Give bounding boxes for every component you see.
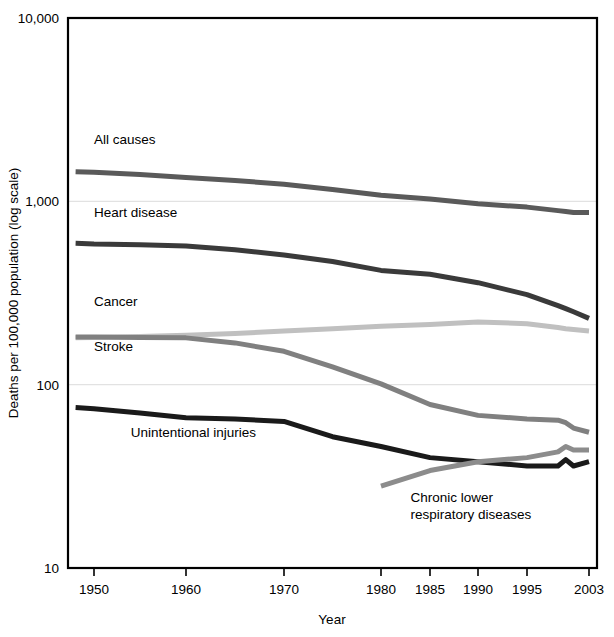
series-label-heart-disease: Heart disease	[94, 205, 177, 220]
y-tick-label: 10,000	[18, 11, 59, 26]
series-line-heart-disease	[76, 243, 589, 318]
y-tick-label: 1,000	[25, 194, 59, 209]
series-label-stroke: Stroke	[94, 339, 133, 354]
x-tick-label: 2003	[574, 582, 604, 597]
y-tick-label: 100	[36, 378, 59, 393]
x-axis-ticks: 19501960197019801985199019952003	[79, 568, 604, 597]
x-tick-label: 1995	[512, 582, 542, 597]
series-label-unintentional-injuries: Unintentional injuries	[131, 425, 257, 440]
x-axis-title: Year	[318, 612, 346, 627]
mortality-trends-chart: 10,0001,00010010 19501960197019801985199…	[0, 0, 614, 637]
y-tick-label: 10	[44, 561, 59, 576]
x-tick-label: 1970	[269, 582, 299, 597]
series-label-all-causes: All causes	[94, 132, 156, 147]
chart-canvas: 10,0001,00010010 19501960197019801985199…	[0, 0, 614, 637]
series-label-cancer: Cancer	[94, 294, 138, 309]
x-tick-label: 1950	[79, 582, 109, 597]
y-axis-title: Deaths per 100,000 population (log scale…	[6, 168, 21, 419]
x-tick-label: 1980	[366, 582, 396, 597]
x-tick-label: 1960	[171, 582, 201, 597]
series-label-chronic-lower-respiratory-diseases: Chronic lowerrespiratory diseases	[410, 490, 531, 522]
y-axis-ticks: 10,0001,00010010	[18, 11, 59, 576]
x-tick-label: 1985	[415, 582, 445, 597]
x-tick-label: 1990	[463, 582, 493, 597]
